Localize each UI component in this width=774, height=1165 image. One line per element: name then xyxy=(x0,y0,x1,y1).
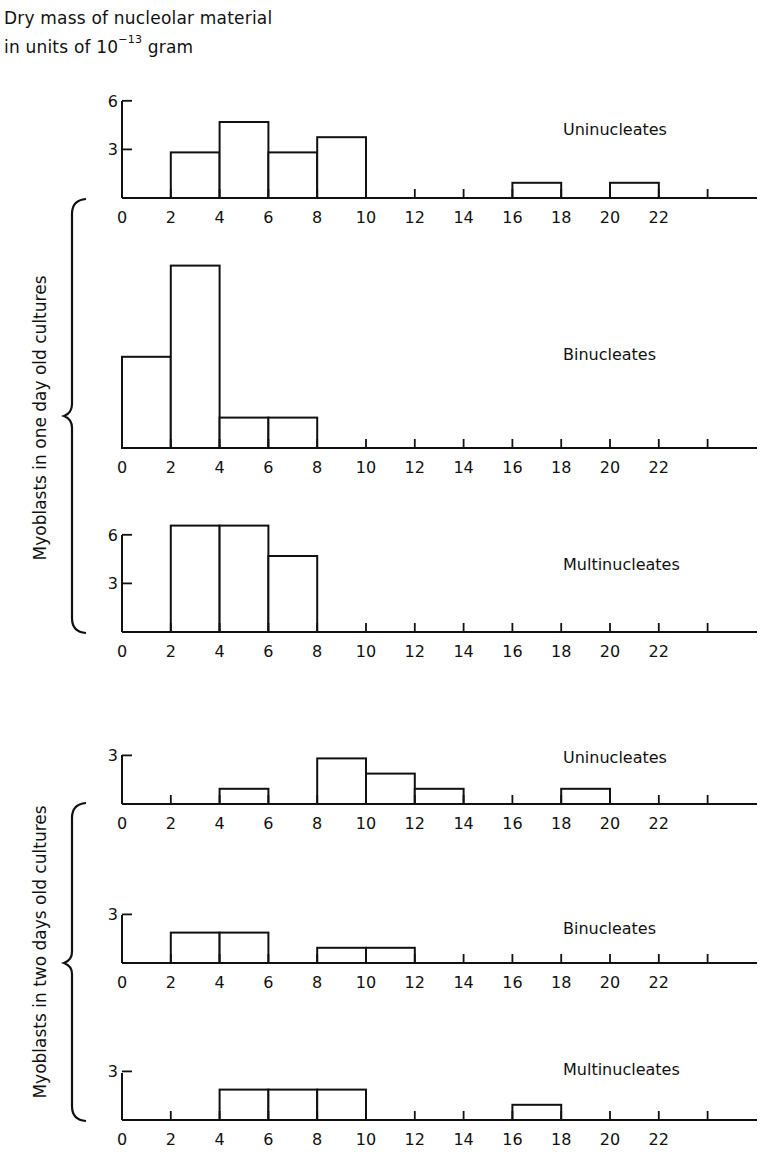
x-tick-label: 18 xyxy=(551,814,571,833)
x-tick-label: 14 xyxy=(453,642,473,661)
x-tick-label: 2 xyxy=(166,1130,176,1149)
x-tick-label: 16 xyxy=(502,642,522,661)
x-tick-label: 4 xyxy=(215,973,225,992)
x-tick-label: 20 xyxy=(600,208,620,227)
histogram-bar xyxy=(415,789,464,804)
x-tick-label: 10 xyxy=(356,458,376,477)
histogram-3: 024681012141618202236Multinucleates xyxy=(108,526,757,661)
x-tick-label: 20 xyxy=(600,642,620,661)
x-tick-label: 12 xyxy=(405,814,425,833)
histogram-bar xyxy=(220,933,269,963)
histogram-bar xyxy=(317,948,366,963)
x-tick-label: 20 xyxy=(600,1130,620,1149)
x-tick-label: 22 xyxy=(649,973,669,992)
histogram-bar xyxy=(171,152,220,198)
x-tick-label: 0 xyxy=(117,814,127,833)
histogram-bar xyxy=(512,1105,561,1120)
group-brace-one-day xyxy=(64,199,86,633)
histogram-bar xyxy=(366,774,415,804)
histogram-bar xyxy=(268,1090,317,1120)
histogram-bar xyxy=(268,556,317,632)
x-tick-label: 0 xyxy=(117,458,127,477)
x-tick-label: 10 xyxy=(356,814,376,833)
histogram-bar xyxy=(317,137,366,198)
y-tick-label: 3 xyxy=(108,746,118,765)
x-tick-label: 4 xyxy=(215,814,225,833)
x-tick-label: 4 xyxy=(215,208,225,227)
y-tick-label: 3 xyxy=(108,140,118,159)
histogram-4: 02468101214161820223Uninucleates xyxy=(108,746,757,833)
histogram-title: Binucleates xyxy=(563,919,656,938)
x-tick-label: 0 xyxy=(117,642,127,661)
x-tick-label: 14 xyxy=(453,458,473,477)
x-tick-label: 6 xyxy=(263,1130,273,1149)
histogram-bar xyxy=(561,789,610,804)
x-tick-label: 8 xyxy=(312,642,322,661)
x-tick-label: 20 xyxy=(600,814,620,833)
x-tick-label: 22 xyxy=(649,814,669,833)
x-tick-label: 12 xyxy=(405,208,425,227)
x-tick-label: 22 xyxy=(649,642,669,661)
group-brace-two-days xyxy=(64,803,86,1121)
x-tick-label: 2 xyxy=(166,458,176,477)
x-tick-label: 12 xyxy=(405,1130,425,1149)
histogram-5: 02468101214161820223Binucleates xyxy=(108,905,757,992)
x-tick-label: 16 xyxy=(502,973,522,992)
x-tick-label: 8 xyxy=(312,973,322,992)
x-tick-label: 18 xyxy=(551,973,571,992)
x-tick-label: 12 xyxy=(405,458,425,477)
x-tick-label: 10 xyxy=(356,208,376,227)
x-tick-label: 14 xyxy=(453,1130,473,1149)
x-tick-label: 8 xyxy=(312,208,322,227)
histogram-bar xyxy=(268,152,317,198)
x-tick-label: 20 xyxy=(600,458,620,477)
x-tick-label: 18 xyxy=(551,642,571,661)
x-tick-label: 16 xyxy=(502,208,522,227)
histogram-bar xyxy=(171,526,220,632)
histogram-bar xyxy=(220,1090,269,1120)
histogram-bar xyxy=(220,789,269,804)
x-tick-label: 8 xyxy=(312,458,322,477)
x-tick-label: 16 xyxy=(502,458,522,477)
y-tick-label: 6 xyxy=(108,92,118,111)
x-tick-label: 6 xyxy=(263,814,273,833)
x-tick-label: 4 xyxy=(215,642,225,661)
x-tick-label: 2 xyxy=(166,208,176,227)
y-tick-label: 3 xyxy=(108,1062,118,1081)
x-tick-label: 14 xyxy=(453,973,473,992)
x-tick-label: 22 xyxy=(649,458,669,477)
x-tick-label: 2 xyxy=(166,814,176,833)
histogram-title: Binucleates xyxy=(563,345,656,364)
histogram-bar xyxy=(268,418,317,448)
histogram-bar xyxy=(317,758,366,804)
x-tick-label: 10 xyxy=(356,1130,376,1149)
x-tick-label: 18 xyxy=(551,458,571,477)
x-tick-label: 14 xyxy=(453,208,473,227)
histogram-bar xyxy=(220,122,269,198)
x-tick-label: 0 xyxy=(117,208,127,227)
x-tick-label: 6 xyxy=(263,973,273,992)
histogram-bar xyxy=(610,183,659,198)
histogram-bar xyxy=(220,526,269,632)
y-tick-label: 3 xyxy=(108,574,118,593)
histogram-6: 02468101214161820223Multinucleates xyxy=(108,1060,757,1149)
x-tick-label: 16 xyxy=(502,814,522,833)
x-tick-label: 6 xyxy=(263,208,273,227)
x-tick-label: 6 xyxy=(263,458,273,477)
x-tick-label: 22 xyxy=(649,208,669,227)
x-tick-label: 18 xyxy=(551,1130,571,1149)
x-tick-label: 8 xyxy=(312,814,322,833)
x-tick-label: 2 xyxy=(166,642,176,661)
x-tick-label: 20 xyxy=(600,973,620,992)
x-tick-label: 22 xyxy=(649,1130,669,1149)
x-tick-label: 12 xyxy=(405,973,425,992)
histogram-bar xyxy=(220,418,269,448)
x-tick-label: 4 xyxy=(215,458,225,477)
histogram-bar xyxy=(512,183,561,198)
histogram-bar xyxy=(317,1090,366,1120)
x-tick-label: 10 xyxy=(356,973,376,992)
histogram-1: 024681012141618202236Uninucleates xyxy=(108,92,757,227)
histogram-title: Multinucleates xyxy=(563,1060,680,1079)
histogram-bar xyxy=(171,266,220,448)
histogram-bar xyxy=(122,357,171,448)
